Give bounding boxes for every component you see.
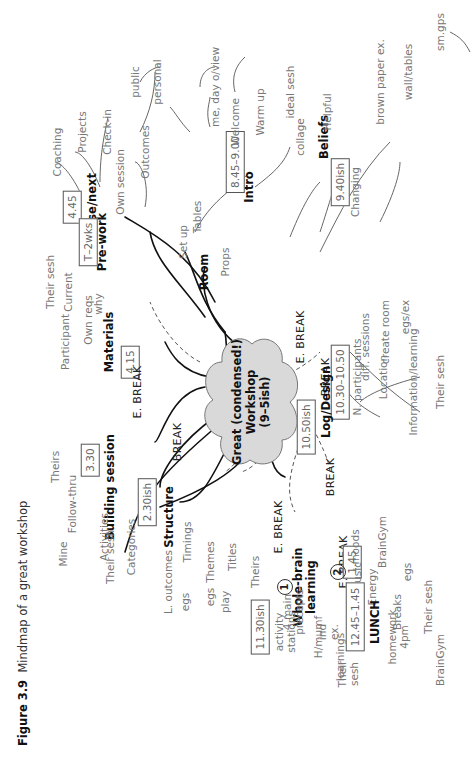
node-welcome: Welcome <box>230 98 241 146</box>
node-helpful: Helpful <box>322 93 333 130</box>
node-collage: collage <box>295 118 306 156</box>
node-egs-ex: egs/ex <box>400 300 411 335</box>
node-why: why <box>93 293 104 314</box>
node-day-overview: me, day o/view <box>210 47 221 127</box>
node-diff-sessions: diff. sessions <box>360 313 371 381</box>
time-break-morning: 10.30–10.50 <box>331 344 350 419</box>
node-public: public <box>130 66 141 98</box>
break-label: BREAK <box>325 458 336 496</box>
branch-intro: Intro <box>244 171 256 203</box>
time-log-design: 10.50ish <box>297 399 316 454</box>
break-label: BREAK <box>172 423 183 461</box>
node-4-main-precepts: 4 main precepts <box>281 589 305 635</box>
node-projects: Projects <box>77 111 88 152</box>
node-current: Current <box>63 272 74 311</box>
figure-label: Figure 3.9 <box>16 680 30 746</box>
figure-caption: Figure 3.9 Mindmap of a great workshop <box>16 501 30 746</box>
node-homework: homework 4pm <box>386 609 410 664</box>
break-label: E. BREAK <box>295 310 306 363</box>
branch-pre-work: Pre-work <box>97 213 109 272</box>
node-personal: personal <box>152 59 163 104</box>
node-l-outcomes: L. outcomes <box>163 550 174 614</box>
node-ideal-sesh: ideal sesh <box>285 66 296 119</box>
node-braingym: BrainGym <box>377 516 388 568</box>
node-theirs-building: Theirs <box>50 451 61 483</box>
node-props: Props <box>220 248 231 277</box>
node-own-session: Own session <box>115 149 126 215</box>
node-information-learning: Information/learning <box>408 328 419 435</box>
node-wall-tables: wall/tables <box>403 44 414 100</box>
time-1130: 11.30ish <box>251 599 270 654</box>
node-titles: Titles <box>227 543 238 571</box>
node-tables: Tables <box>192 201 203 234</box>
node-play: play <box>220 591 231 613</box>
node-brown-paper: brown paper ex. <box>375 39 386 124</box>
node-sm-gps: sm.gps <box>435 13 446 51</box>
node-egs-outcomes: egs <box>180 593 191 612</box>
node-coaching: Coaching <box>52 128 63 177</box>
figure-title: Mindmap of a great workshop <box>16 501 30 673</box>
node-their-sesh-materials: Their sesh <box>45 255 56 309</box>
node-their-sesh-breaks: Their sesh <box>423 580 434 634</box>
break-label: E. BREAK <box>273 500 284 553</box>
break-label: E. BREAK <box>132 365 143 418</box>
center-topic: Great (condensed!) Workshop (9–5ish) <box>231 339 272 465</box>
node-create-room: create room <box>380 300 391 364</box>
time-structure: 2.30ish <box>138 478 157 526</box>
time-beliefs: 9.40ish <box>331 158 350 206</box>
node-their-sesh-building: Their sesh <box>105 530 116 584</box>
node-themes: Themes <box>205 541 216 583</box>
branch-log-design: Log/Design <box>321 366 333 438</box>
node-warm-up: Warm up <box>255 88 266 135</box>
time-lunch: 12.45–1.45 <box>346 583 365 652</box>
node-moods: moods <box>350 529 361 564</box>
node-changing: Changing <box>350 167 361 217</box>
marker-2: 2 <box>330 564 346 580</box>
node-follow-thru: Follow-thru <box>67 475 78 533</box>
node-check-in: Check-in <box>102 109 113 155</box>
time-building-session: 3.30 <box>81 443 100 476</box>
node-egs-breaks: egs <box>402 563 413 582</box>
node-timings: Timings <box>182 522 193 563</box>
node-their-sesh-wbl: Their sesh <box>336 661 360 688</box>
mindmap-canvas: Figure 3.9 Mindmap of a great workshop G… <box>0 0 472 772</box>
time-pre-work: T–2wks <box>79 218 98 266</box>
node-theirs-structure: Theirs <box>250 556 261 588</box>
node-set-up: Set up <box>178 225 189 259</box>
node-their-sesh-log: Their sesh <box>435 355 446 409</box>
branch-materials: Materials <box>104 312 116 373</box>
node-categories: Categories <box>126 519 137 576</box>
node-participant: Participant <box>60 314 71 370</box>
node-outcomes: Outcomes <box>140 125 151 178</box>
branch-room: Room <box>199 254 211 291</box>
node-braingym-2: BrainGym <box>435 634 446 686</box>
branch-structure: Structure <box>164 486 176 548</box>
node-egs-themes: egs <box>205 588 216 607</box>
node-mine: Mine <box>58 541 69 566</box>
branch-lunch: LUNCH <box>370 600 382 644</box>
